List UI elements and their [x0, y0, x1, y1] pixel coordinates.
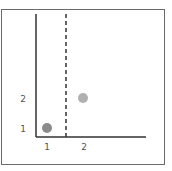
data-point-1	[42, 123, 52, 133]
data-point-2	[78, 93, 88, 103]
y-tick-label-1: 1	[20, 124, 26, 134]
y-tick-label-2: 2	[20, 94, 26, 104]
x-tick-label-2: 2	[81, 142, 87, 152]
x-tick-label-1: 1	[44, 142, 50, 152]
scatter-plot: 1 2 1 2	[0, 0, 172, 171]
